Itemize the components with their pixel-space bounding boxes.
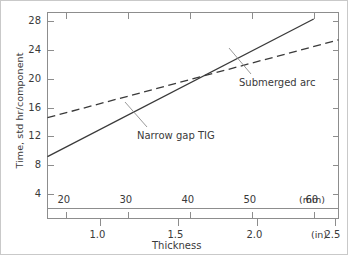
y-tick-label: 20 [15, 73, 41, 84]
y-tick-label: 28 [15, 15, 41, 26]
right-axis-ticks [333, 22, 339, 195]
annotation-leader-lines [125, 48, 251, 127]
inch-unit-label: (in) [311, 229, 327, 240]
mm-unit-label: (mm) [299, 194, 325, 205]
chart-canvas [1, 1, 348, 255]
top-axis-ticks [67, 13, 315, 19]
mm-tick-label: 20 [58, 194, 71, 205]
y-tick-label: 24 [15, 44, 41, 55]
series-label-narrow-gap-tig: Narrow gap TIG [137, 130, 215, 141]
y-tick-label: 16 [15, 102, 41, 113]
inch-tick-label: 1.0 [90, 229, 106, 240]
mm-tick-label: 50 [244, 194, 257, 205]
y-tick-label: 8 [15, 159, 41, 170]
mm-axis-ticks [67, 212, 315, 219]
x-axis-title: Thickness [152, 240, 201, 251]
plot-frame [48, 13, 339, 209]
series-label-submerged-arc: Submerged arc [239, 77, 315, 88]
mm-tick-label: 40 [182, 194, 195, 205]
inch-tick-label: 1.5 [168, 229, 184, 240]
inch-axis-ticks [101, 219, 336, 226]
y-tick-label: 4 [15, 188, 41, 199]
y-tick-label: 12 [15, 130, 41, 141]
y-axis-ticks [48, 22, 54, 195]
chart-figure: Time, std hr/component 481216202428 2030… [0, 0, 348, 255]
inch-tick-label: 2.0 [247, 229, 263, 240]
secondary-axis-line [48, 209, 339, 219]
mm-tick-label: 30 [120, 194, 133, 205]
